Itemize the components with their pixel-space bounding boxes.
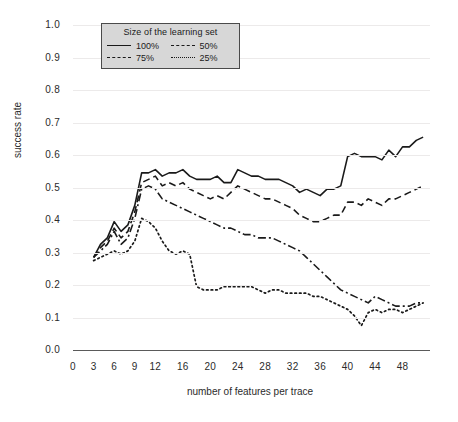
x-axis-line — [73, 350, 430, 351]
x-tick-label: 20 — [195, 362, 225, 372]
gridline — [73, 188, 430, 189]
gridline — [73, 90, 430, 91]
y-tick-label: 0.6 — [20, 150, 60, 160]
y-tick-label: 0.5 — [20, 183, 60, 193]
gridline — [73, 155, 430, 156]
y-tick-label: 0.1 — [20, 313, 60, 323]
x-tick-label: 36 — [305, 362, 335, 372]
line-dashed-icon — [107, 54, 131, 62]
legend-label: 50% — [200, 41, 218, 51]
x-tick-label: 16 — [168, 362, 198, 372]
y-tick-label: 0.9 — [20, 53, 60, 63]
plot-area — [73, 25, 430, 350]
legend-entry-75: 75% — [107, 53, 171, 63]
x-tick-label: 32 — [278, 362, 308, 372]
legend-title: Size of the learning set — [107, 27, 234, 37]
legend-entry-50: 50% — [171, 41, 235, 51]
x-tick-label: 24 — [223, 362, 253, 372]
y-axis-title: success rate — [12, 85, 23, 175]
y-tick-label: 0.3 — [20, 248, 60, 258]
y-tick-label: 0.0 — [20, 345, 60, 355]
gridlines — [73, 25, 430, 350]
y-tick-label: 1.0 — [20, 20, 60, 30]
legend-label: 75% — [136, 53, 154, 63]
gridline — [73, 220, 430, 221]
gridline — [73, 253, 430, 254]
legend-row: 75% 25% — [107, 52, 234, 64]
y-tick-label: 0.8 — [20, 85, 60, 95]
gridline — [73, 285, 430, 286]
legend: Size of the learning set 100% 50% 75% 25… — [101, 23, 240, 69]
gridline — [73, 318, 430, 319]
legend-label: 25% — [200, 53, 218, 63]
line-solid-icon — [107, 42, 131, 50]
gridline — [73, 123, 430, 124]
x-tick-label: 28 — [250, 362, 280, 372]
x-tick-label: 48 — [388, 362, 418, 372]
y-tick-label: 0.2 — [20, 280, 60, 290]
legend-entry-100: 100% — [107, 41, 171, 51]
legend-entry-25: 25% — [171, 53, 235, 63]
line-dashdot-icon — [171, 42, 195, 50]
x-tick-label: 40 — [333, 362, 363, 372]
x-tick-label: 44 — [360, 362, 390, 372]
y-tick-label: 0.4 — [20, 215, 60, 225]
chart-container: success rate number of features per trac… — [0, 0, 458, 422]
x-tick-label: 12 — [140, 362, 170, 372]
y-tick-label: 0.7 — [20, 118, 60, 128]
x-axis-title: number of features per trace — [100, 386, 400, 397]
legend-row: 100% 50% — [107, 40, 234, 52]
line-dotted-icon — [171, 54, 195, 62]
legend-label: 100% — [136, 41, 159, 51]
